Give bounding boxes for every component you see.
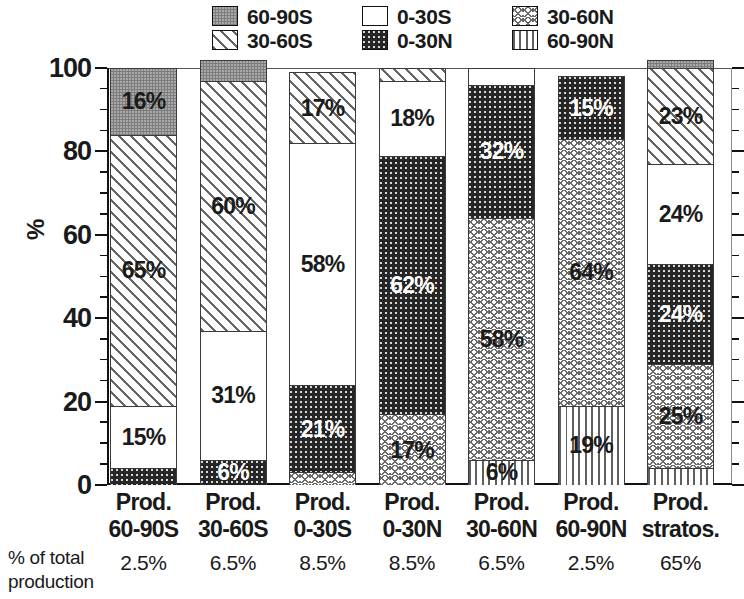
y-tick-major-right — [732, 67, 744, 69]
x-tick-label-line1: Prod. — [474, 489, 529, 515]
legend-item-label: 0-30N — [397, 30, 452, 51]
y-tick-minor-right — [732, 359, 739, 361]
y-tick-label: 100 — [49, 53, 91, 84]
y-tick-label: 40 — [63, 303, 91, 334]
bar-segment: 58% — [469, 218, 534, 460]
bar-segment-label: 31% — [211, 384, 255, 407]
bar-segment-label: 60% — [211, 195, 255, 218]
legend-item-label: 60-90S — [247, 6, 312, 27]
y-tick-minor — [100, 338, 107, 340]
y-tick-minor-right — [732, 213, 739, 215]
bar-segment: 31% — [201, 331, 266, 460]
legend-item-30-60n[interactable]: 30-60N — [512, 4, 672, 28]
bar-segment: 17% — [380, 414, 445, 485]
y-tick-major — [95, 150, 107, 152]
footer-value: 2.5% — [546, 551, 636, 575]
stacked-bar[interactable]: 32%58%6% — [468, 68, 535, 485]
bar-segment-label: 19% — [569, 434, 613, 457]
bar-segment-label: 65% — [122, 259, 166, 282]
legend-item-label: 30-60N — [547, 6, 613, 27]
y-tick-minor — [100, 192, 107, 194]
bar-segment-label: 64% — [569, 261, 613, 284]
y-tick-minor-right — [732, 255, 739, 257]
bar-segment-label: 24% — [659, 303, 703, 326]
bar-segment — [111, 468, 176, 485]
footer-value: 2.5% — [99, 551, 189, 575]
y-tick-major — [95, 484, 107, 486]
chart-legend: 60-90S0-30S30-60N30-60S0-30N60-90N — [212, 4, 732, 52]
y-tick-label: 20 — [63, 386, 91, 417]
x-tick-label-line2: 30-60N — [457, 516, 547, 543]
bar-segment-label: 16% — [122, 90, 166, 113]
y-tick-minor — [100, 359, 107, 361]
bar-segment: 18% — [380, 81, 445, 156]
bar-segment: 6% — [201, 460, 266, 485]
y-tick-minor — [100, 88, 107, 90]
legend-item-60-90n[interactable]: 60-90N — [512, 28, 672, 52]
y-tick-minor-right — [732, 463, 739, 465]
bar-segment-label: 6% — [486, 461, 518, 484]
bar-segment: 15% — [559, 76, 624, 139]
legend-item-30-60s[interactable]: 30-60S — [212, 28, 362, 52]
stacked-bar[interactable]: 17%58%21% — [289, 72, 356, 485]
y-tick-minor — [100, 109, 107, 111]
bar-segment: 21% — [290, 385, 355, 473]
footer-value: 8.5% — [278, 551, 368, 575]
x-tick-label: Prod.30-60S — [188, 489, 278, 543]
stacked-bar[interactable]: 16%65%15% — [110, 68, 177, 485]
stacked-bar[interactable]: 23%24%24%25% — [647, 60, 714, 485]
legend-swatch-icon — [512, 30, 538, 50]
bar-segment: 64% — [559, 139, 624, 406]
stacked-bar[interactable]: 18%62%17% — [379, 68, 446, 485]
legend-item-0-30n[interactable]: 0-30N — [362, 28, 512, 52]
bar-segment: 23% — [648, 68, 713, 164]
bar-segment — [380, 68, 445, 81]
y-tick-minor — [100, 255, 107, 257]
bar-segment-label: 32% — [480, 140, 524, 163]
stacked-bar[interactable]: 60%31%6% — [200, 60, 267, 485]
y-tick-minor-right — [732, 421, 739, 423]
stacked-bar[interactable]: 15%64%19% — [558, 76, 625, 485]
bar-segment-label: 15% — [122, 426, 166, 449]
y-tick-minor-right — [732, 88, 739, 90]
bar-segment-label: 24% — [659, 203, 703, 226]
bar-segment: 60% — [201, 81, 266, 331]
bar-segment: 17% — [290, 72, 355, 143]
bar-segment-label: 58% — [480, 328, 524, 351]
y-tick-minor — [100, 380, 107, 382]
y-tick-label: 60 — [63, 219, 91, 250]
y-tick-minor — [100, 421, 107, 423]
bar-segment-label: 6% — [217, 461, 249, 484]
bar-segment-label: 23% — [659, 105, 703, 128]
x-tick-label-line2: 60-90S — [99, 516, 189, 543]
y-tick-minor-right — [732, 296, 739, 298]
legend-item-0-30s[interactable]: 0-30S — [362, 4, 512, 28]
x-tick-label: Prod.60-90N — [546, 489, 636, 543]
y-tick-major-right — [732, 484, 744, 486]
bar-segment — [290, 472, 355, 485]
y-tick-minor-right — [732, 109, 739, 111]
bar-segment — [648, 60, 713, 68]
x-tick-label: Prod.0-30S — [278, 489, 368, 543]
x-tick-label: Prod.0-30N — [367, 489, 457, 543]
bar-segment-label: 15% — [569, 97, 613, 120]
y-tick-major — [95, 401, 107, 403]
x-tick-label-line1: Prod. — [116, 489, 171, 515]
y-tick-minor — [100, 296, 107, 298]
footer-value: 65% — [636, 551, 726, 575]
y-tick-minor — [100, 171, 107, 173]
y-axis-title: % — [22, 219, 50, 240]
x-tick-label-line1: Prod. — [384, 489, 439, 515]
y-tick-minor — [100, 276, 107, 278]
legend-item-60-90s[interactable]: 60-90S — [212, 4, 362, 28]
bar-segment-label: 17% — [390, 439, 434, 462]
bar-segment: 62% — [380, 156, 445, 415]
bar-segment — [648, 468, 713, 485]
legend-swatch-icon — [212, 6, 238, 26]
y-tick-major — [95, 234, 107, 236]
bar-segment: 15% — [111, 406, 176, 469]
x-tick-label: Prod.30-60N — [457, 489, 547, 543]
y-tick-minor — [100, 130, 107, 132]
bar-segment: 19% — [559, 406, 624, 485]
y-tick-minor — [100, 463, 107, 465]
